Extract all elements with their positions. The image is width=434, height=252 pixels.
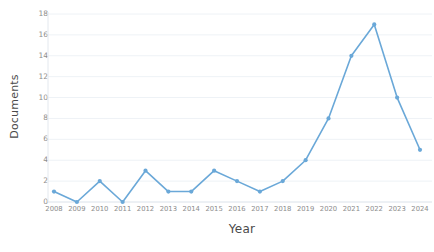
x-tick-label: 2010 [91,206,108,213]
x-tick-label: 2008 [45,206,62,213]
line-chart: Documents 024681012141618 20082009201020… [0,0,434,252]
x-axis-tick-labels: 2008200920102011201220132014201520162017… [0,0,434,252]
x-tick-label: 2021 [343,206,360,213]
x-tick-label: 2015 [205,206,222,213]
x-tick-label: 2009 [68,206,85,213]
x-tick-label: 2017 [251,206,268,213]
x-tick-label: 2018 [274,206,291,213]
x-tick-label: 2011 [114,206,131,213]
x-tick-label: 2014 [183,206,200,213]
x-tick-label: 2024 [411,206,428,213]
x-axis-title: Year [50,222,434,236]
x-tick-label: 2019 [297,206,314,213]
x-tick-label: 2023 [388,206,405,213]
x-tick-label: 2016 [228,206,245,213]
x-tick-label: 2012 [137,206,154,213]
x-tick-label: 2022 [366,206,383,213]
x-tick-label: 2020 [320,206,337,213]
x-tick-label: 2013 [160,206,177,213]
